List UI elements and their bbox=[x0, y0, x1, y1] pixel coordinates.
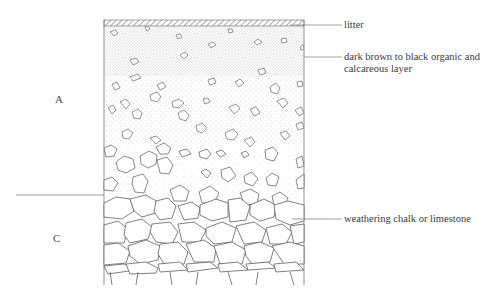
bedrock-label: weathering chalk or limestone bbox=[344, 213, 471, 225]
stones-c-horizon bbox=[104, 195, 304, 285]
horizon-a-label: A bbox=[55, 93, 63, 105]
horizon-c-label: C bbox=[53, 232, 60, 244]
organic-layer-label-line1: dark brown to black organic and bbox=[344, 51, 480, 63]
litter-layer bbox=[104, 20, 304, 26]
organic-layer bbox=[104, 26, 304, 76]
litter-label: litter bbox=[344, 19, 364, 31]
soil-profile-drawing bbox=[0, 0, 501, 298]
organic-layer-label-line2: calcareous layer bbox=[344, 63, 412, 75]
